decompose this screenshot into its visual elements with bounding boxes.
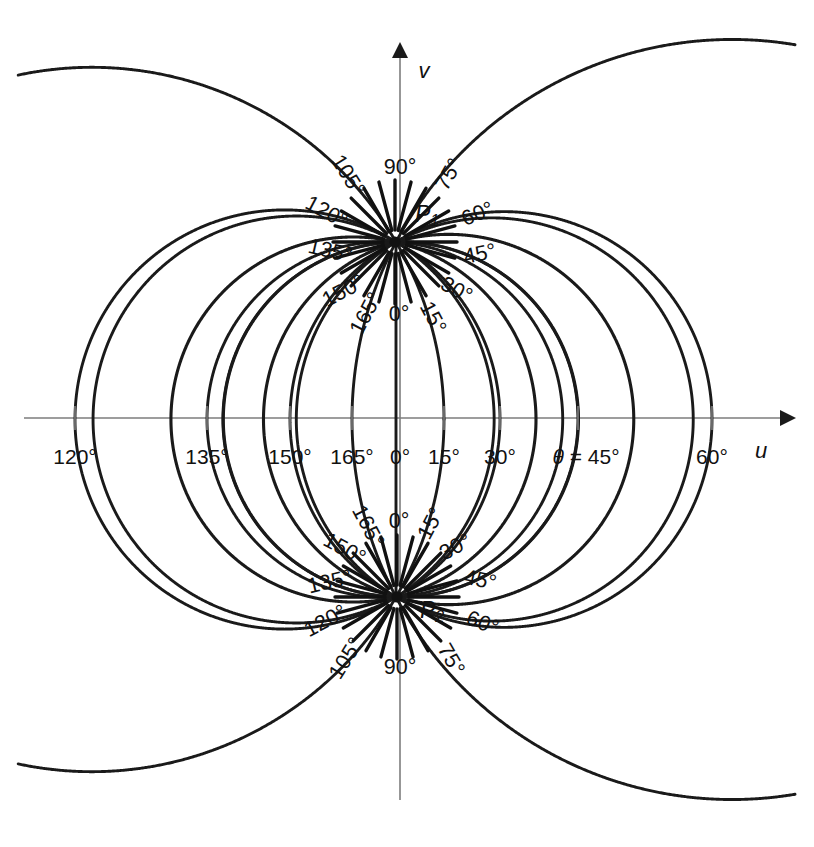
axis-tick-text: θ = 45° [552,445,619,468]
axis-tick-label: 60° [696,445,728,468]
upper-curve-label-15: 15° [415,297,451,337]
pole-label-p1-text: P1 [415,201,439,229]
upper-curve-label-75: 75° [430,154,467,194]
axis-tick-label: 30° [484,445,516,468]
v-axis-arrowhead [392,42,408,58]
axis-tick-label: 135° [185,445,228,468]
lower-curve-label-15: 15° [413,503,449,543]
arc-theta-135 [207,242,563,598]
upper-curve-label-120: 120° [301,191,352,233]
pole-p2-subscript: 2 [434,608,444,625]
pole-p1-subscript: 1 [430,212,439,229]
pole-label-p2: P2 [420,597,444,625]
lower-curve-label-60: 60° [463,606,502,640]
lower-curve-label-45: 45° [462,565,499,595]
u-axis-arrowhead [780,410,796,426]
upper-curve-label-60: 60° [458,197,497,231]
pole-point-p2 [392,592,403,603]
lower-curve-label-75: 75° [433,639,470,679]
axis-tick-text: 0° [390,445,410,468]
pole-point-p1 [390,237,401,248]
pole-label-p1: P1 [415,201,439,229]
upper-curve-label-105: 105° [326,150,370,200]
axis-tick-label: 0° [390,445,410,468]
axis-tick-label: θ = 45° [552,445,619,468]
arc-theta-165 [352,39,795,799]
v-axis-label: v [419,58,432,83]
axis-tick-text: 15° [428,445,460,468]
u-axis-label: u [755,438,767,463]
arc-theta-90 [223,242,578,597]
lower-curve-label-0: 0° [389,509,410,533]
axis-tick-text: 150° [268,445,311,468]
pole-label-p2-text: P2 [420,597,444,625]
axis-tick-text: 135° [185,445,228,468]
lower-curve-label-90: 90° [384,655,417,679]
axis-tick-text: 60° [696,445,728,468]
axis-tick-label: 165° [330,445,373,468]
upper-curve-label-90: 90° [384,155,417,179]
figure-root: 120°135°150°165°0°15°30°θ = 45°60°90°75°… [0,0,814,847]
pole-p2-letter: P [420,597,436,623]
upper-curve-label-135: 135° [306,234,355,267]
upper-curve-label-45: 45° [461,239,498,269]
axis-tick-text: 165° [330,445,373,468]
axis-tick-label: 15° [428,445,460,468]
bipolar-coordinate-diagram: 120°135°150°165°0°15°30°θ = 45°60°90°75°… [0,0,814,847]
lower-curve-label-120: 120° [300,600,351,642]
upper-curve-label-0: 0° [389,302,410,326]
arc-curves-layer [18,39,795,799]
axis-tick-text: 120° [53,445,96,468]
pole-p1-letter: P [415,201,431,227]
axis-tick-text: 30° [484,445,516,468]
axis-tick-label: 120° [53,445,96,468]
lower-curve-label-105: 105° [324,633,368,683]
axis-tick-label: 150° [268,445,311,468]
